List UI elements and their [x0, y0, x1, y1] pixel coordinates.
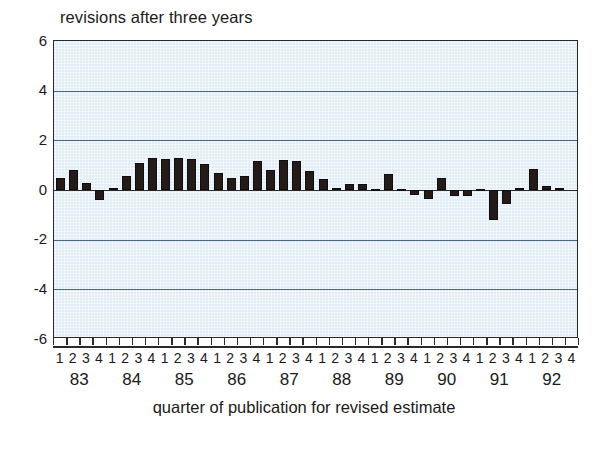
- x-tick: [302, 338, 303, 345]
- quarter-label: 1: [263, 349, 277, 367]
- quarter-label: 4: [302, 349, 316, 367]
- quarter-tick-labels: 1234123412341234123412341234123412341234: [53, 349, 578, 369]
- x-tick: [184, 338, 185, 345]
- year-label: 83: [59, 369, 99, 390]
- year-label: 88: [322, 369, 362, 390]
- x-tick: [486, 338, 487, 345]
- bar: [358, 184, 367, 190]
- quarter-label: 3: [499, 349, 513, 367]
- x-tick: [434, 338, 435, 345]
- year-label: 92: [532, 369, 572, 390]
- x-tick: [368, 338, 369, 345]
- y-tick-label: 0: [3, 182, 47, 197]
- bar: [69, 170, 78, 190]
- bar: [463, 190, 472, 196]
- year-label: 84: [112, 369, 152, 390]
- bar: [82, 183, 91, 190]
- x-tick: [263, 338, 264, 345]
- quarter-label: 3: [131, 349, 145, 367]
- quarter-label: 1: [525, 349, 539, 367]
- bar: [332, 188, 341, 190]
- quarter-label: 4: [512, 349, 526, 367]
- bar: [56, 178, 65, 190]
- quarter-label: 4: [354, 349, 368, 367]
- bar: [161, 159, 170, 190]
- quarter-label: 1: [105, 349, 119, 367]
- quarter-label: 1: [158, 349, 172, 367]
- x-tick: [355, 338, 356, 345]
- bar: [476, 189, 485, 191]
- bar: [174, 158, 183, 190]
- plot-area: [53, 40, 578, 338]
- x-tick: [145, 338, 146, 345]
- y-tick-label: -4: [3, 281, 47, 296]
- quarter-label: 2: [433, 349, 447, 367]
- year-label: 85: [164, 369, 204, 390]
- bar: [410, 190, 419, 195]
- quarter-label: 4: [564, 349, 578, 367]
- quarter-label: 2: [118, 349, 132, 367]
- chart-figure: revisions after three years 6420-2-4-6 1…: [0, 0, 608, 456]
- x-tick: [447, 338, 448, 345]
- y-axis: 6420-2-4-6: [0, 40, 47, 338]
- quarter-label: 2: [538, 349, 552, 367]
- bar: [227, 178, 236, 190]
- bar: [266, 170, 275, 190]
- x-tick: [79, 338, 80, 345]
- year-label: 90: [427, 369, 467, 390]
- x-tick: [289, 338, 290, 345]
- bar: [437, 178, 446, 190]
- y-tick-label: 6: [3, 33, 47, 48]
- x-tick: [473, 338, 474, 345]
- x-tick: [224, 338, 225, 345]
- bar: [502, 190, 511, 204]
- quarter-label: 1: [368, 349, 382, 367]
- bar: [109, 188, 118, 190]
- bar: [148, 158, 157, 190]
- bar: [319, 179, 328, 190]
- quarter-label: 3: [446, 349, 460, 367]
- x-tick: [211, 338, 212, 345]
- x-tick: [421, 338, 422, 345]
- quarter-label: 2: [486, 349, 500, 367]
- quarter-label: 4: [459, 349, 473, 367]
- bar: [450, 190, 459, 196]
- y-tick-label: -2: [3, 231, 47, 246]
- quarter-label: 1: [53, 349, 67, 367]
- x-tick: [578, 338, 579, 345]
- x-tick: [526, 338, 527, 345]
- x-tick: [552, 338, 553, 345]
- quarter-label: 3: [79, 349, 93, 367]
- x-tick: [197, 338, 198, 345]
- quarter-label: 4: [92, 349, 106, 367]
- y-tick-label: -6: [3, 331, 47, 346]
- x-tick: [92, 338, 93, 345]
- quarter-label: 2: [328, 349, 342, 367]
- x-tick: [539, 338, 540, 345]
- year-tick-labels: 83848586878889909192: [53, 369, 578, 393]
- bar-series: [54, 41, 577, 337]
- x-tick: [237, 338, 238, 345]
- bar: [135, 163, 144, 190]
- quarter-label: 3: [236, 349, 250, 367]
- x-tick: [512, 338, 513, 345]
- bar: [345, 184, 354, 190]
- quarter-label: 3: [289, 349, 303, 367]
- chart-title: revisions after three years: [60, 8, 253, 27]
- bar: [371, 189, 380, 191]
- x-tick: [499, 338, 500, 345]
- x-tick: [119, 338, 120, 345]
- bar: [305, 171, 314, 190]
- x-axis-ticks: [53, 338, 578, 345]
- bar: [95, 190, 104, 200]
- bar: [515, 188, 524, 190]
- quarter-label: 1: [210, 349, 224, 367]
- bar: [253, 161, 262, 190]
- year-label: 87: [269, 369, 309, 390]
- quarter-label: 1: [473, 349, 487, 367]
- quarter-label: 2: [381, 349, 395, 367]
- x-tick: [381, 338, 382, 345]
- bar: [187, 159, 196, 190]
- x-tick: [276, 338, 277, 345]
- x-tick: [316, 338, 317, 345]
